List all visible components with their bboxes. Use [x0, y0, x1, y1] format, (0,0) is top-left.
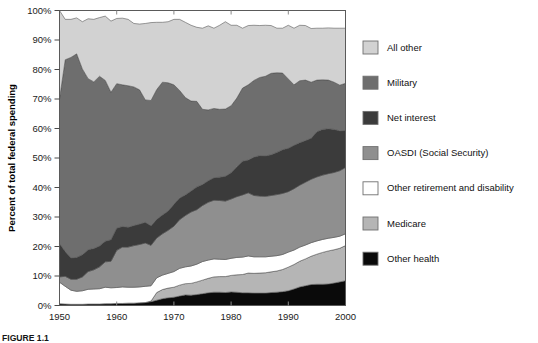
legend-swatch-other_health	[363, 252, 378, 265]
legend-item-military[interactable]: Military	[363, 76, 417, 89]
legend-label-oasdi: OASDI (Social Security)	[387, 147, 488, 158]
y-tick-label: 50%	[32, 152, 52, 163]
legend-swatch-other_retirement	[363, 182, 378, 195]
legend-swatch-medicare	[363, 217, 378, 230]
legend-item-other_health[interactable]: Other health	[363, 252, 439, 265]
y-tick-label: 100%	[27, 5, 52, 16]
legend-label-other_retirement: Other retirement and disability	[387, 182, 514, 193]
legend-swatch-military	[363, 76, 378, 89]
legend-item-net_interest[interactable]: Net interest	[363, 111, 436, 124]
legend-swatch-all_other	[363, 41, 378, 54]
y-tick-label: 80%	[32, 64, 52, 75]
y-tick-label: 90%	[32, 34, 52, 45]
y-tick-label: 70%	[32, 93, 52, 104]
stacked-area-chart-figure: 0%10%20%30%40%50%60%70%80%90%100% 195019…	[0, 0, 538, 343]
legend-item-medicare[interactable]: Medicare	[363, 217, 426, 230]
y-tick-label: 30%	[32, 211, 52, 222]
legend-label-other_health: Other health	[387, 253, 439, 264]
x-tick-label: 1990	[278, 311, 299, 322]
y-tick-label: 10%	[32, 270, 52, 281]
x-tick-label: 1950	[49, 311, 70, 322]
legend-label-military: Military	[387, 77, 417, 88]
y-tick-label: 20%	[32, 241, 52, 252]
legend-label-medicare: Medicare	[387, 218, 426, 229]
legend-label-net_interest: Net interest	[387, 112, 436, 123]
x-tick-label: 1970	[163, 311, 184, 322]
plot-areas-group	[60, 11, 346, 306]
y-tick-label: 40%	[32, 182, 52, 193]
figure-caption: FIGURE 1.1	[2, 333, 49, 343]
legend-swatch-net_interest	[363, 111, 378, 124]
y-tick-label: 0%	[38, 300, 52, 311]
y-axis-label: Percent of total federal spending	[6, 84, 17, 232]
legend-swatch-oasdi	[363, 147, 378, 160]
x-tick-label: 1960	[106, 311, 127, 322]
legend-item-all_other[interactable]: All other	[363, 41, 422, 54]
x-tick-label: 2000	[335, 311, 356, 322]
x-tick-label: 1980	[221, 311, 242, 322]
y-tick-label: 60%	[32, 123, 52, 134]
legend-label-all_other: All other	[387, 42, 422, 53]
